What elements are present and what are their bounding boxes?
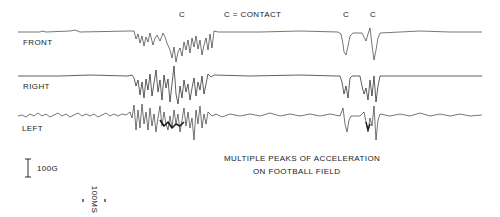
trace-front — [18, 28, 482, 62]
scale-bar-100g — [25, 159, 31, 177]
caption-line-1: MULTIPLE PEAKS OF ACCELERATION — [224, 154, 380, 163]
trace-right — [18, 66, 482, 104]
caption-line-2: ON FOOTBALL FIELD — [253, 167, 340, 176]
scale-label-100ms: 100MS — [90, 186, 99, 213]
scale-label-100g: 100G — [37, 164, 58, 173]
trace-left — [18, 104, 482, 140]
acceleration-traces — [0, 0, 500, 217]
trace-left-dense — [160, 120, 184, 128]
